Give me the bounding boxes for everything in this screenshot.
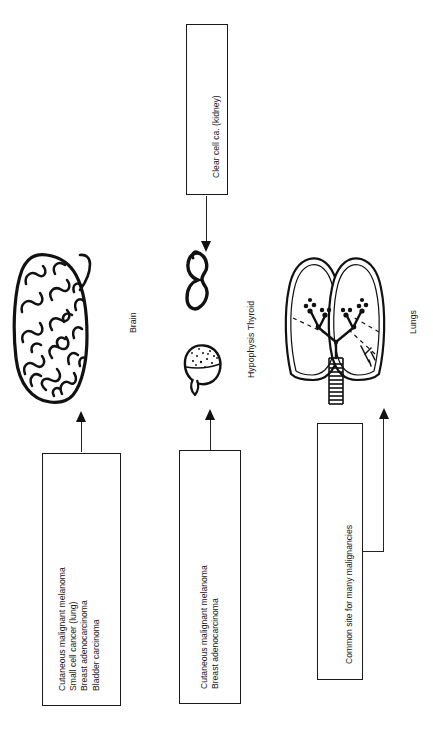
arrow-note-to-lungs-shaft xyxy=(383,418,384,552)
arrow-primaries-to-brain-head xyxy=(76,411,86,422)
lungs-label: Lungs xyxy=(408,310,418,334)
arrow-primaries-to-brain-shaft xyxy=(81,420,82,452)
arrow-primaries-to-hypophysis-shaft xyxy=(210,418,211,450)
box-brain-primaries-label: Cutaneous malignant melanoma Small cell … xyxy=(57,567,102,691)
arrow-kidney-to-thyroid-shaft xyxy=(206,196,207,243)
thyroid-illustration xyxy=(183,256,231,316)
arrow-kidney-to-thyroid-head xyxy=(201,241,211,252)
brain-illustration xyxy=(52,250,130,410)
box-pituitary-primaries-label: Cutaneous malignant melanoma Breast aden… xyxy=(199,565,221,689)
brain-label: Brain xyxy=(128,312,138,333)
lungs-illustration xyxy=(283,252,395,404)
hypophysis-thyroid-label: Hypophysis Thyroid xyxy=(246,301,256,378)
hypophysis-illustration xyxy=(180,330,236,396)
arrow-note-to-lungs-segment-bottom xyxy=(363,551,384,552)
box-lung-note xyxy=(317,423,363,680)
arrow-primaries-to-hypophysis-head xyxy=(205,409,215,420)
box-clear-cell-kidney-label: Clear cell ca. (kidney) xyxy=(211,95,222,178)
box-lung-note-label: Common site for many malignancies xyxy=(344,525,355,664)
metastasis-diagram: Clear cell ca. (kidney) xyxy=(0,0,433,743)
arrow-note-to-lungs-head xyxy=(379,408,389,419)
